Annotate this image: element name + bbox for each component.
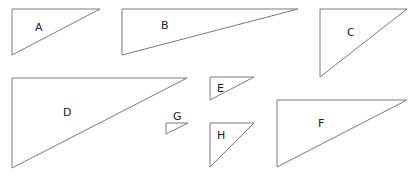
triangle-b: B: [122, 9, 298, 55]
triangle-label: E: [217, 82, 224, 95]
triangle-h: H: [210, 123, 254, 167]
triangle-label: B: [161, 19, 169, 32]
triangle-a: A: [12, 9, 100, 55]
triangle-g: G: [166, 110, 188, 134]
triangle-label: H: [217, 129, 225, 142]
triangle-label: C: [347, 26, 355, 39]
triangle-label: F: [318, 117, 324, 130]
triangle-label: G: [173, 110, 182, 123]
triangle-f: F: [277, 100, 407, 167]
triangles-diagram: A B C D E F G H: [0, 0, 418, 179]
triangle-d: D: [12, 78, 187, 168]
triangle-e: E: [210, 77, 254, 100]
triangle-c: C: [320, 9, 407, 77]
triangle-label: D: [63, 106, 71, 119]
triangle-label: A: [35, 21, 43, 34]
